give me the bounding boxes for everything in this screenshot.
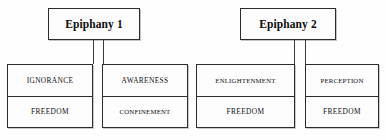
node-epiphany-2-label: Epiphany 2 (259, 18, 317, 30)
node-epiphany-1[interactable]: Epiphany 1 (48, 8, 140, 40)
connector-epiphany-2-to-leaf-4 (305, 40, 306, 64)
leaf-box-ignorance-freedom[interactable]: IGNORANCE FREEDOM (7, 64, 93, 128)
leaf-3-bottom-cell: FREEDOM (197, 97, 294, 128)
leaf-box-awareness-confinement[interactable]: AWARENESS CONFINEMENT (102, 64, 188, 128)
leaf-box-perception-freedom[interactable]: PERCEPTION FREEDOM (305, 64, 379, 128)
connector-epiphany-1-to-leaf-2 (103, 40, 104, 64)
connector-epiphany-2-to-leaf-3 (294, 40, 295, 64)
connector-epiphany-1-to-leaf-1 (93, 40, 94, 64)
leaf-2-bottom-cell: CONFINEMENT (103, 97, 187, 128)
leaf-1-bottom-cell: FREEDOM (8, 97, 92, 128)
leaf-2-top-cell: AWARENESS (103, 65, 187, 97)
node-epiphany-2[interactable]: Epiphany 2 (240, 8, 336, 40)
leaf-box-enlightenment-freedom[interactable]: ENLIGHTENMENT FREEDOM (196, 64, 295, 128)
diagram-canvas: Epiphany 1 Epiphany 2 IGNORANCE FREEDOM … (0, 0, 386, 140)
leaf-1-top-cell: IGNORANCE (8, 65, 92, 97)
leaf-4-top-cell: PERCEPTION (306, 65, 378, 97)
leaf-4-bottom-cell: FREEDOM (306, 97, 378, 128)
leaf-3-top-cell: ENLIGHTENMENT (197, 65, 294, 97)
node-epiphany-1-label: Epiphany 1 (65, 18, 123, 30)
